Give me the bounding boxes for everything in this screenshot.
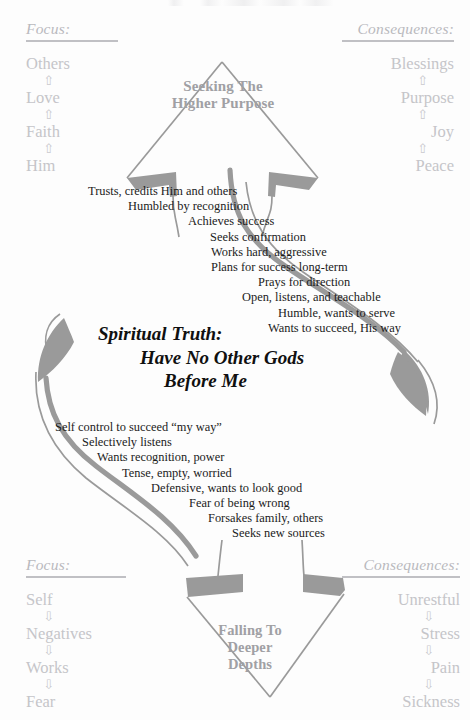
focus-bottom-item-0: Self ⇩ <box>26 591 126 623</box>
cascade-line: Forsakes family, others <box>0 511 470 526</box>
cascade-line: Prays for direction <box>0 275 470 290</box>
down-arrow-icon: ⇩ <box>26 678 126 691</box>
down-arrow-icon: ⇩ <box>342 644 460 657</box>
cascade-line: Self control to succeed “my way” <box>0 420 470 435</box>
consequences-bottom-rule <box>342 576 460 578</box>
up-arrow-icon: ⇧ <box>26 74 118 87</box>
top-arrow-label: Seeking The Higher Purpose <box>148 78 298 113</box>
down-arrow-icon: ⇩ <box>342 610 460 623</box>
cascade-line: Humble, wants to serve <box>0 306 470 321</box>
cascade-line: Humbled by recognition <box>0 199 470 214</box>
cascade-line: Open, listens, and teachable <box>0 290 470 305</box>
focus-bottom-heading: Focus: <box>26 556 126 576</box>
bottom-arrow-label: Falling To Deeper Depths <box>195 622 305 672</box>
bottom-arrow-label-line-0: Falling To <box>195 622 305 639</box>
downward-cascade-list: Self control to succeed “my way” Selecti… <box>0 420 470 542</box>
up-arrow-icon: ⇧ <box>342 108 454 121</box>
diagram-page: .stroke-thin { fill:none; stroke:#9a9a9a… <box>0 0 470 720</box>
focus-top-item-3: Him <box>26 157 118 174</box>
cascade-line: Tense, empty, worried <box>0 466 470 481</box>
statement-line-1: Spiritual Truth: <box>98 322 388 346</box>
upward-cascade-list: Trusts, credits Him and others Humbled b… <box>0 184 470 336</box>
central-statement: Spiritual Truth: Have No Other Gods Befo… <box>98 322 388 393</box>
focus-top-rule <box>26 40 118 42</box>
cascade-line: Defensive, wants to look good <box>0 481 470 496</box>
cascade-line: Seeks new sources <box>0 526 470 541</box>
consequences-top-item-2: Joy ⇧ <box>342 123 454 155</box>
focus-top-item-1: Love ⇧ <box>26 89 118 121</box>
cascade-line: Plans for success long-term <box>0 260 470 275</box>
statement-line-3: Before Me <box>98 369 388 393</box>
top-arrow-label-line-0: Seeking The <box>148 78 298 95</box>
consequences-bottom-item-2: Pain ⇩ <box>342 659 460 691</box>
up-arrow-icon: ⇧ <box>26 142 118 155</box>
up-arrow-icon: ⇧ <box>342 142 454 155</box>
focus-bottom-item-3: Fear <box>26 693 126 710</box>
consequences-bottom-heading: Consequences: <box>342 556 460 576</box>
consequences-top-item-3: Peace <box>342 157 454 174</box>
focus-bottom-item-2: Works ⇩ <box>26 659 126 691</box>
statement-line-2: Have No Other Gods <box>98 346 388 370</box>
bottom-arrow-label-line-2: Depths <box>195 656 305 673</box>
top-arrow-label-line-1: Higher Purpose <box>148 95 298 112</box>
bottom-arrow-label-line-1: Deeper <box>195 639 305 656</box>
consequences-bottom-item-0: Unrestful ⇩ <box>342 591 460 623</box>
bottom-arrowhead-shape <box>186 540 345 697</box>
focus-bottom-item-1: Negatives ⇩ <box>26 625 126 657</box>
cascade-line: Selectively listens <box>0 435 470 450</box>
cascade-line: Fear of being wrong <box>0 496 470 511</box>
cascade-line: Works hard, aggressive <box>0 245 470 260</box>
consequences-column-bottom: Consequences: Unrestful ⇩ Stress ⇩ Pain … <box>342 556 460 711</box>
cascade-line: Seeks confirmation <box>0 230 470 245</box>
consequences-bottom-item-3: Sickness <box>342 693 460 710</box>
consequences-bottom-item-1: Stress ⇩ <box>342 625 460 657</box>
focus-top-item-2: Faith ⇧ <box>26 123 118 155</box>
down-arrow-icon: ⇩ <box>26 610 126 623</box>
consequences-column-top: Consequences: Blessings ⇧ Purpose ⇧ Joy … <box>342 20 454 175</box>
cascade-line: Trusts, credits Him and others <box>0 184 470 199</box>
up-arrow-icon: ⇧ <box>26 108 118 121</box>
focus-bottom-rule <box>26 576 126 578</box>
focus-top-heading: Focus: <box>26 20 118 40</box>
focus-top-item-0: Others ⇧ <box>26 55 118 87</box>
cascade-line: Achieves success <box>0 214 470 229</box>
consequences-top-item-0: Blessings ⇧ <box>342 55 454 87</box>
focus-column-top: Focus: Others ⇧ Love ⇧ Faith ⇧ Him <box>26 20 118 175</box>
up-arrow-icon: ⇧ <box>342 74 454 87</box>
cascade-line: Wants recognition, power <box>0 450 470 465</box>
down-arrow-icon: ⇩ <box>342 678 460 691</box>
consequences-top-rule <box>342 40 454 42</box>
focus-column-bottom: Focus: Self ⇩ Negatives ⇩ Works ⇩ Fear <box>26 556 126 711</box>
down-arrow-icon: ⇩ <box>26 644 126 657</box>
consequences-top-heading: Consequences: <box>342 20 454 40</box>
consequences-top-item-1: Purpose ⇧ <box>342 89 454 121</box>
